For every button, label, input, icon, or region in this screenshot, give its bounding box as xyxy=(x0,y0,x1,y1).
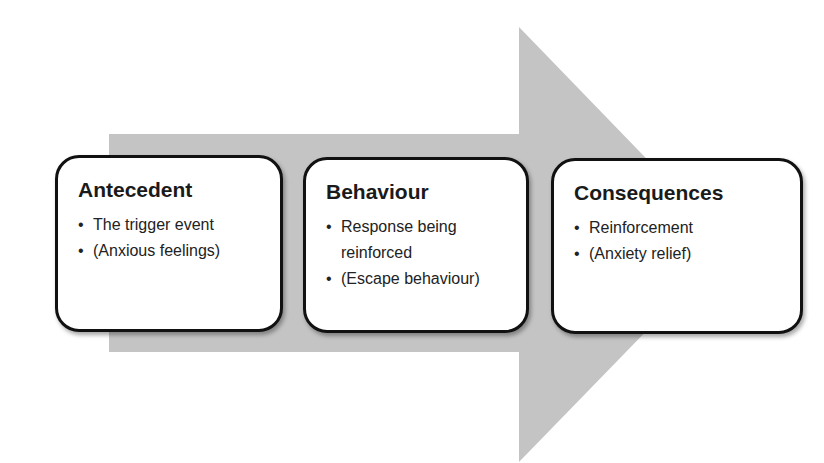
step-box-antecedent: Antecedent The trigger event (Anxious fe… xyxy=(55,155,283,332)
step-bullet-list: Reinforcement (Anxiety relief) xyxy=(574,215,786,267)
step-box-behaviour: Behaviour Response being reinforced (Esc… xyxy=(303,157,529,333)
bullet-item: (Escape behaviour) xyxy=(326,266,512,292)
bullet-item: Response being reinforced xyxy=(326,214,511,266)
step-title: Behaviour xyxy=(326,180,512,204)
step-title: Antecedent xyxy=(78,178,266,202)
step-bullet-list: Response being reinforced (Escape behavi… xyxy=(326,214,512,292)
bullet-item: (Anxious feelings) xyxy=(78,238,266,264)
step-bullet-list: The trigger event (Anxious feelings) xyxy=(78,212,266,264)
bullet-item: (Anxiety relief) xyxy=(574,241,786,267)
step-box-consequences: Consequences Reinforcement (Anxiety reli… xyxy=(551,158,803,334)
bullet-item: The trigger event xyxy=(78,212,266,238)
step-title: Consequences xyxy=(574,181,786,205)
bullet-item: Reinforcement xyxy=(574,215,786,241)
